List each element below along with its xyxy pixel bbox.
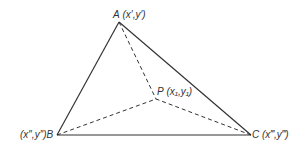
edge-ab xyxy=(57,22,119,135)
point-p-coords: (x₁,y₁) xyxy=(166,86,192,97)
edge-bp-dashed xyxy=(57,99,156,135)
edge-cp-dashed xyxy=(156,99,251,135)
edge-ap-dashed xyxy=(119,22,156,99)
vertex-b-coords: (x″,y″) xyxy=(20,129,47,140)
edge-ac xyxy=(119,22,251,135)
vertex-b-label: (x″,y″)B xyxy=(20,130,53,140)
vertex-a-label: A (x′,y′) xyxy=(113,10,146,20)
point-p-name: P xyxy=(157,86,164,97)
vertex-a-coords: (x′,y′) xyxy=(122,9,145,20)
point-p-label: P (x₁,y₁) xyxy=(157,87,192,97)
vertex-c-label: C (x‴,y‴) xyxy=(252,130,289,140)
vertex-b-name: B xyxy=(47,129,54,140)
vertex-a-name: A xyxy=(113,9,120,20)
vertex-c-name: C xyxy=(252,129,259,140)
triangle-diagram: A (x′,y′) P (x₁,y₁) (x″,y″)B C (x‴,y‴) xyxy=(0,0,304,154)
vertex-c-coords: (x‴,y‴) xyxy=(262,129,289,140)
